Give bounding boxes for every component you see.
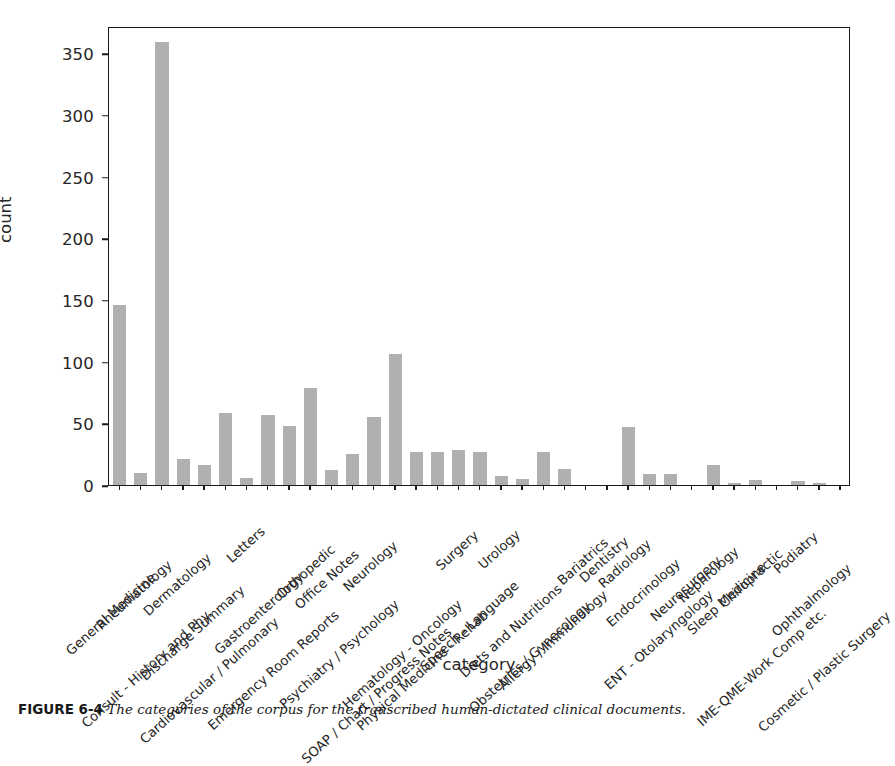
x-tick-mark: [543, 486, 544, 490]
bar: [622, 427, 635, 485]
y-tick-label: 0: [83, 477, 94, 496]
x-tick-mark: [564, 486, 565, 490]
bar: [283, 426, 296, 485]
plot-area: [108, 27, 850, 486]
bar: [155, 42, 168, 485]
bar: [728, 483, 741, 485]
bar: [495, 476, 508, 485]
x-tick-mark: [670, 486, 671, 490]
x-tick-mark: [437, 486, 438, 490]
x-tick-label-text: Surgery: [433, 528, 481, 574]
x-tick-mark: [225, 486, 226, 490]
bar: [198, 465, 211, 485]
x-tick-mark: [458, 486, 459, 490]
x-tick-mark: [373, 486, 374, 490]
x-tick-mark: [140, 486, 141, 490]
bar: [261, 415, 274, 485]
x-tick-mark: [203, 486, 204, 490]
bar: [537, 452, 550, 485]
bar: [516, 479, 529, 485]
y-tick-label: 300: [62, 106, 94, 125]
x-tick-mark: [288, 486, 289, 490]
y-tick-label: 150: [62, 291, 94, 310]
x-tick-mark: [818, 486, 819, 490]
x-tick-mark: [267, 486, 268, 490]
bars-layer: [109, 28, 849, 485]
x-tick-mark: [331, 486, 332, 490]
x-axis: General MedicineRheumatologyConsult - Hi…: [108, 486, 850, 666]
x-tick-mark: [246, 486, 247, 490]
bar: [346, 454, 359, 485]
bar: [707, 465, 720, 485]
x-tick-mark: [182, 486, 183, 490]
bar: [389, 354, 402, 485]
x-tick-mark: [691, 486, 692, 490]
bar: [304, 388, 317, 485]
x-tick-mark: [415, 486, 416, 490]
bar: [367, 417, 380, 485]
bar: [664, 474, 677, 485]
x-tick-mark: [352, 486, 353, 490]
x-axis-label: category: [108, 655, 850, 674]
bar: [134, 473, 147, 485]
y-tick-label: 350: [62, 45, 94, 64]
figure-caption: FIGURE 6-4 The categories of the corpus …: [18, 700, 863, 721]
x-tick-mark: [839, 486, 840, 490]
y-tick-label: 50: [73, 415, 94, 434]
x-tick-mark: [776, 486, 777, 490]
x-tick-mark: [627, 486, 628, 490]
x-tick-mark: [649, 486, 650, 490]
x-tick-mark: [500, 486, 501, 490]
x-tick-mark: [309, 486, 310, 490]
x-tick-mark: [521, 486, 522, 490]
bar: [473, 452, 486, 485]
bar: [813, 483, 826, 485]
y-axis-label: count: [0, 196, 15, 243]
bar: [558, 469, 571, 485]
bar: [240, 478, 253, 485]
x-tick-label-text: SOAP / Chart / Progress Notes: [299, 624, 455, 766]
caption-text: The categories of the corpus for the tra…: [107, 701, 685, 717]
y-tick-label: 250: [62, 168, 94, 187]
y-axis: 050100150200250300350: [0, 0, 108, 513]
y-tick-label: 200: [62, 230, 94, 249]
x-tick-mark: [585, 486, 586, 490]
x-tick-mark: [394, 486, 395, 490]
bar: [452, 450, 465, 485]
x-tick-mark: [755, 486, 756, 490]
y-tick-label: 100: [62, 353, 94, 372]
bar: [219, 413, 232, 485]
bar: [791, 481, 804, 485]
x-tick-mark: [797, 486, 798, 490]
bar: [410, 452, 423, 485]
x-tick-mark: [161, 486, 162, 490]
figure-number: FIGURE 6-4: [18, 701, 103, 717]
x-tick-mark: [733, 486, 734, 490]
bar: [177, 459, 190, 485]
bar: [325, 470, 338, 485]
x-tick-mark: [479, 486, 480, 490]
bar: [431, 452, 444, 485]
x-tick-mark: [119, 486, 120, 490]
bar: [113, 305, 126, 485]
x-tick-mark: [712, 486, 713, 490]
bar: [749, 480, 762, 485]
bar: [643, 474, 656, 485]
x-tick-mark: [606, 486, 607, 490]
